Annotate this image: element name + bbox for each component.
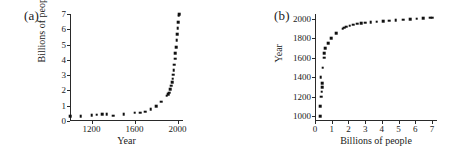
y-axis-line-a (70, 14, 71, 121)
y-tick-a (67, 14, 70, 15)
data-point (174, 57, 177, 60)
x-axis-line-a (70, 120, 183, 121)
data-point (174, 52, 177, 55)
data-point (415, 18, 418, 21)
x-ticklabel-b: 5 (396, 124, 401, 134)
data-point (319, 105, 322, 108)
x-axis-line-b (315, 120, 437, 121)
data-point (422, 17, 425, 20)
y-ticklabel-a: 3 (62, 70, 67, 80)
data-point (356, 22, 359, 25)
data-point (69, 115, 72, 118)
x-ticklabel-a: 1600 (126, 124, 144, 134)
panel-b-label: (b) (274, 8, 290, 24)
y-ticklabel-a: 4 (62, 55, 67, 65)
panel-a: (a) Billions of people Year 012345671200… (0, 0, 234, 158)
data-point (172, 74, 175, 77)
data-point (352, 23, 355, 26)
data-point (175, 39, 178, 42)
y-tick-a (67, 106, 70, 107)
data-point (149, 108, 152, 111)
data-point (133, 111, 136, 114)
data-point (395, 19, 398, 22)
data-point (105, 113, 108, 116)
data-point (324, 47, 327, 50)
data-point (323, 52, 326, 55)
data-point (321, 66, 324, 69)
y-ticklabel-a: 2 (62, 85, 67, 95)
x-ticklabel-a: 1200 (83, 124, 101, 134)
data-point (364, 21, 367, 24)
y-axis-title-b: Year (273, 44, 284, 62)
data-point (177, 21, 180, 24)
data-point (388, 20, 391, 23)
x-ticklabel-b: 0 (313, 124, 318, 134)
y-tick-a (67, 45, 70, 46)
y-ticklabel-b: 1800 (293, 33, 311, 43)
data-point (79, 115, 82, 118)
data-point (320, 95, 323, 98)
data-point (169, 88, 172, 91)
data-point (155, 105, 158, 108)
data-point (360, 22, 363, 25)
data-point (320, 76, 323, 79)
panel-b: (b) Year Billions of people 100012001400… (234, 0, 467, 158)
plot-area-b: Year Billions of people 1000120014001600… (315, 14, 437, 121)
x-axis-title-b: Billions of people (340, 135, 412, 146)
data-point (323, 56, 326, 59)
y-tick-b (312, 77, 315, 78)
data-point (175, 46, 178, 49)
data-point (375, 20, 378, 23)
data-point (319, 115, 322, 118)
y-ticklabel-b: 1400 (293, 72, 311, 82)
y-ticklabel-b: 2000 (293, 14, 311, 24)
y-ticklabel-b: 1200 (293, 92, 311, 102)
y-ticklabel-a: 0 (62, 116, 67, 126)
data-point (409, 18, 412, 21)
population-figure: (a) Billions of people Year 012345671200… (0, 0, 467, 158)
data-point (327, 42, 330, 45)
x-ticklabel-b: 7 (430, 124, 435, 134)
data-point (171, 81, 174, 84)
data-point (96, 114, 99, 117)
data-point (176, 33, 179, 36)
data-point (178, 13, 181, 16)
y-tick-b (312, 97, 315, 98)
data-point (144, 111, 147, 114)
y-ticklabel-a: 6 (62, 24, 67, 34)
data-point (112, 114, 115, 117)
data-point (431, 16, 434, 19)
y-ticklabel-b: 1600 (293, 53, 311, 63)
data-point (321, 86, 324, 89)
data-point (321, 82, 324, 85)
x-ticklabel-b: 4 (380, 124, 385, 134)
x-axis-title-a: Year (117, 135, 135, 146)
x-ticklabel-b: 3 (363, 124, 368, 134)
data-point (170, 85, 173, 88)
x-ticklabel-a: 2000 (169, 124, 187, 134)
data-point (345, 25, 348, 28)
data-point (320, 91, 323, 94)
data-point (173, 63, 176, 66)
data-point (90, 114, 93, 117)
data-point (330, 37, 333, 40)
data-point (123, 113, 126, 116)
y-tick-b (312, 38, 315, 39)
data-point (335, 32, 338, 35)
data-point (402, 19, 405, 22)
y-ticklabel-a: 5 (62, 40, 67, 50)
data-point (348, 24, 351, 27)
y-tick-a (67, 60, 70, 61)
y-tick-b (312, 116, 315, 117)
data-point (168, 91, 171, 94)
y-axis-title-a: Billions of people (36, 0, 47, 62)
y-tick-a (67, 29, 70, 30)
y-tick-a (67, 90, 70, 91)
x-ticklabel-b: 1 (329, 124, 334, 134)
data-point (382, 20, 385, 23)
y-tick-a (67, 75, 70, 76)
y-axis-line-b (315, 14, 316, 121)
y-ticklabel-a: 7 (62, 9, 67, 19)
x-ticklabel-b: 6 (413, 124, 418, 134)
y-tick-a (67, 121, 70, 122)
